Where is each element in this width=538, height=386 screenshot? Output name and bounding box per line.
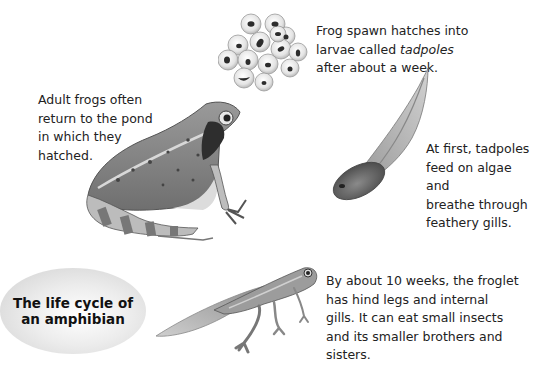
froglet-caption-line: and its smaller brothers and xyxy=(326,328,519,347)
tadpole-caption-line: breathe through xyxy=(426,196,538,215)
tadpole-illustration xyxy=(324,66,434,202)
tadpole-caption: At first, tadpoles feed on algae and bre… xyxy=(426,140,538,233)
title-badge: The life cycle of an amphibian xyxy=(0,268,146,354)
froglet-caption-line: By about 10 weeks, the froglet xyxy=(326,272,519,291)
spawn-caption-line-1: Frog spawn hatches into xyxy=(316,22,468,41)
froglet-caption-line: sisters. xyxy=(326,346,519,365)
froglet-illustration xyxy=(154,258,320,354)
tadpoles-term: tadpoles xyxy=(400,42,454,57)
tadpole-caption-line: At first, tadpoles xyxy=(426,140,538,159)
tadpole-caption-line: feathery gills. xyxy=(426,214,538,233)
froglet-caption: By about 10 weeks, the froglet has hind … xyxy=(326,272,519,365)
froglet-caption-line: has hind legs and internal xyxy=(326,291,519,310)
page-title: The life cycle of an amphibian xyxy=(13,295,133,327)
tadpole-caption-line: feed on algae and xyxy=(426,159,538,196)
adult-frog-illustration xyxy=(78,100,258,245)
froglet-caption-line: gills. It can eat small insects xyxy=(326,309,519,328)
spawn-caption-line-2: larvae called tadpoles xyxy=(316,41,468,60)
frog-spawn-illustration xyxy=(218,12,310,92)
